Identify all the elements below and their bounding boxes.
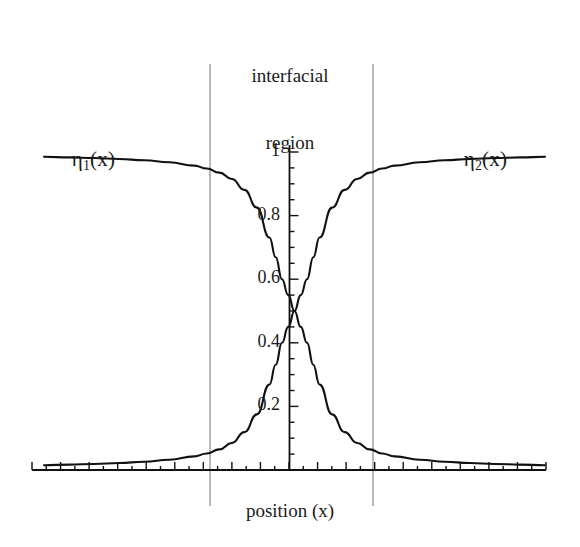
series-label-eta2: η2(x) <box>442 122 507 199</box>
series-label-eta2-arg: (x) <box>482 147 507 171</box>
x-axis-label: position (x) <box>0 500 580 522</box>
series-label-eta2-subscript: 2 <box>475 158 482 173</box>
y-axis-tick-label: 0.6 <box>218 267 280 288</box>
series-label-eta2-symbol: η <box>464 147 475 171</box>
y-axis-tick-label-text: 0.8 <box>258 204 281 225</box>
y-axis-tick-label-text: 0.6 <box>258 267 281 288</box>
y-axis-tick-label: 0.4 <box>218 331 280 352</box>
series-label-eta1-arg: (x) <box>90 147 115 171</box>
series-label-eta1-subscript: 1 <box>83 158 90 173</box>
y-axis-tick-label-text: 0.4 <box>258 331 281 352</box>
curve-eta2 <box>44 157 545 465</box>
chart-title-line-1: interfacial <box>0 65 580 87</box>
series-label-eta1: η1(x) <box>50 122 115 199</box>
y-axis-tick-label: 0.8 <box>218 204 280 225</box>
chart-figure: interfacial region η1(x) η2(x) 10.80.60.… <box>0 0 580 547</box>
series-label-eta1-symbol: η <box>72 147 83 171</box>
y-axis-tick-label-text: 1 <box>271 140 280 161</box>
y-axis-tick-label: 1 <box>218 140 280 161</box>
y-axis-tick-label: 0.2 <box>218 394 280 415</box>
y-axis-tick-label-text: 0.2 <box>258 394 281 415</box>
